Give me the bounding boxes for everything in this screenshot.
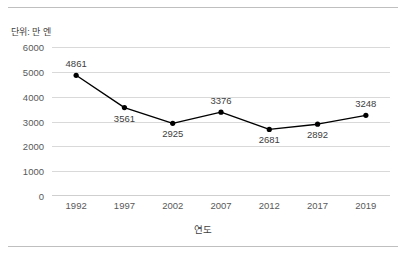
data-point-marker bbox=[267, 127, 272, 132]
top-rule bbox=[8, 7, 398, 8]
data-label: 3376 bbox=[210, 95, 231, 106]
x-tick-label: 1997 bbox=[114, 200, 135, 211]
x-tick-label: 2007 bbox=[210, 200, 231, 211]
data-label: 2892 bbox=[307, 129, 328, 140]
data-label: 3248 bbox=[355, 98, 376, 109]
line-series bbox=[52, 47, 390, 196]
x-tick-label: 2002 bbox=[162, 200, 183, 211]
x-tick-label: 2017 bbox=[307, 200, 328, 211]
data-point-marker bbox=[170, 121, 175, 126]
data-point-marker bbox=[74, 73, 79, 78]
y-tick-label: 4000 bbox=[0, 91, 44, 102]
y-tick-label: 6000 bbox=[0, 42, 44, 53]
data-point-marker bbox=[122, 105, 127, 110]
data-point-marker bbox=[363, 113, 368, 118]
x-tick-label: 1992 bbox=[66, 200, 87, 211]
y-tick-label: 0 bbox=[0, 191, 44, 202]
data-point-marker bbox=[315, 122, 320, 127]
bottom-rule bbox=[8, 246, 398, 247]
data-point-marker bbox=[218, 110, 223, 115]
plot-area bbox=[52, 47, 390, 196]
y-tick-label: 2000 bbox=[0, 141, 44, 152]
y-tick-label: 3000 bbox=[0, 116, 44, 127]
data-label: 2681 bbox=[259, 134, 280, 145]
x-axis-title: 연도 bbox=[0, 222, 406, 236]
data-label: 3561 bbox=[114, 113, 135, 124]
data-label: 4861 bbox=[66, 58, 87, 69]
y-tick-label: 1000 bbox=[0, 166, 44, 177]
chart-figure: 단위: 만 엔 6000500040003000200010000 199219… bbox=[0, 0, 406, 258]
y-tick-label: 5000 bbox=[0, 66, 44, 77]
x-tick-label: 2019 bbox=[355, 200, 376, 211]
unit-label: 단위: 만 엔 bbox=[11, 25, 51, 38]
data-label: 2925 bbox=[162, 128, 183, 139]
x-tick-label: 2012 bbox=[259, 200, 280, 211]
